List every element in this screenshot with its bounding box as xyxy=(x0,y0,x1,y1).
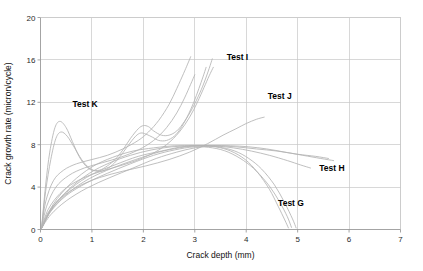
series-annotations: Test KTest ITest JTest HTest G xyxy=(72,52,344,208)
y-tick-label: 16 xyxy=(27,56,36,65)
x-tick-label: 5 xyxy=(295,235,300,244)
crack-growth-chart: 01234567048121620 Test KTest ITest JTest… xyxy=(0,0,423,271)
x-tick-label: 2 xyxy=(141,235,146,244)
series-curve xyxy=(42,75,195,229)
x-tick-label: 4 xyxy=(244,235,249,244)
series-curve xyxy=(42,147,292,229)
y-tick-label: 12 xyxy=(27,98,36,107)
x-tick-label: 0 xyxy=(38,235,43,244)
annotation-test-i: Test I xyxy=(227,52,249,62)
x-tick-label: 3 xyxy=(193,235,198,244)
x-tick-label: 6 xyxy=(347,235,352,244)
y-tick-label: 8 xyxy=(31,141,36,150)
annotation-test-k: Test K xyxy=(72,99,98,109)
tick-labels: 01234567048121620 xyxy=(27,14,404,244)
gridlines xyxy=(41,18,401,230)
x-axis-title: Crack depth (mm) xyxy=(186,250,254,260)
series-curve xyxy=(42,117,265,228)
x-tick-label: 1 xyxy=(90,235,95,244)
annotation-test-g: Test G xyxy=(278,198,304,208)
annotation-test-h: Test H xyxy=(319,163,344,173)
chart-svg: 01234567048121620 Test KTest ITest JTest… xyxy=(0,0,423,271)
y-axis-title: Crack growth rate (micron/cycle) xyxy=(3,62,13,185)
x-tick-label: 7 xyxy=(398,235,403,244)
y-tick-label: 0 xyxy=(31,226,36,235)
y-tick-label: 4 xyxy=(31,183,36,192)
y-tick-label: 20 xyxy=(27,14,36,23)
annotation-test-j: Test J xyxy=(268,91,292,101)
series-curve xyxy=(42,59,213,229)
